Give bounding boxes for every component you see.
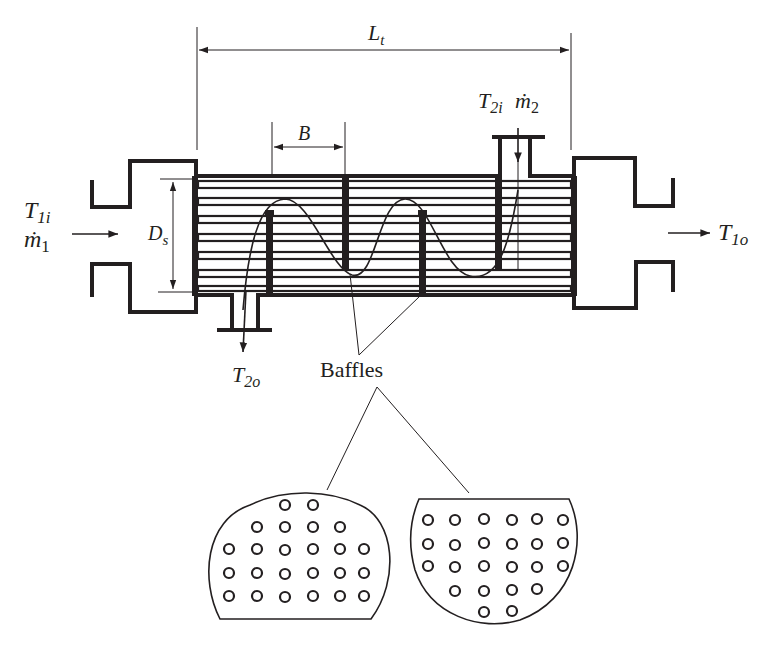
left-baffle-cross-section <box>209 493 390 619</box>
baffle-spacing-dimension: B <box>272 122 345 174</box>
svg-text:T1i: T1i <box>24 197 51 227</box>
baffle-3 <box>419 215 426 295</box>
tube-holes <box>224 500 369 602</box>
tube-length-dimension: Lt <box>197 20 571 150</box>
tube-inlet-flow-label: ṁ <box>24 226 41 252</box>
inlet-head <box>92 161 196 312</box>
svg-text:ṁ2: ṁ2 <box>515 88 539 116</box>
baffle-spacing-label: B <box>298 122 310 144</box>
heat-exchanger-diagram: Lt B <box>0 0 764 651</box>
tube-holes <box>423 514 568 617</box>
right-baffle-cross-section <box>411 499 577 624</box>
svg-text:Ds: Ds <box>147 222 168 248</box>
svg-text:T1o: T1o <box>718 219 748 249</box>
baffle-2 <box>342 176 349 271</box>
baffle-1 <box>266 215 273 295</box>
svg-text:ṁ1: ṁ1 <box>24 226 50 256</box>
tube-length-label: L <box>367 20 380 45</box>
shell-diameter-label: D <box>147 222 163 244</box>
svg-text:T2i: T2i <box>478 88 503 116</box>
svg-text:Lt: Lt <box>367 20 385 48</box>
svg-text:T2o: T2o <box>232 362 260 390</box>
baffles-callout: Baffles <box>320 274 469 493</box>
outlet-head <box>574 158 673 308</box>
shell-inlet-flow-label: ṁ <box>515 88 531 113</box>
baffles-label: Baffles <box>320 357 383 382</box>
shell-diameter-dimension: Ds <box>147 179 192 292</box>
baffle-4 <box>495 176 502 271</box>
